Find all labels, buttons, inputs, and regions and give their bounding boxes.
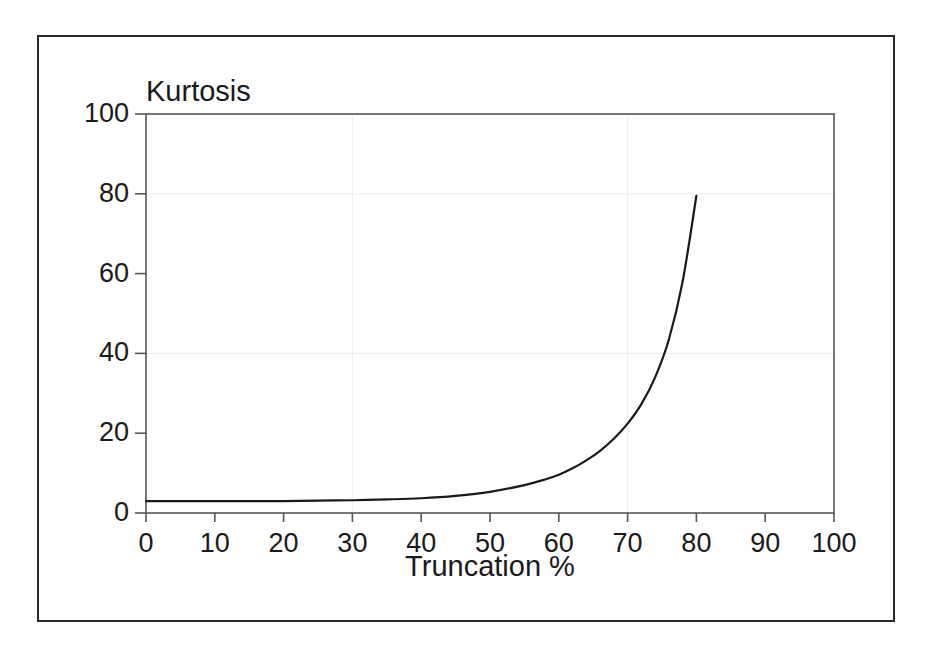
kurtosis-curve bbox=[146, 196, 696, 501]
axis-ticks bbox=[135, 114, 834, 522]
gridlines bbox=[146, 114, 834, 513]
plot-canvas bbox=[0, 0, 942, 650]
plot-axes bbox=[146, 114, 834, 513]
chart-figure: Kurtosis Truncation % 020406080100 01020… bbox=[0, 0, 942, 650]
